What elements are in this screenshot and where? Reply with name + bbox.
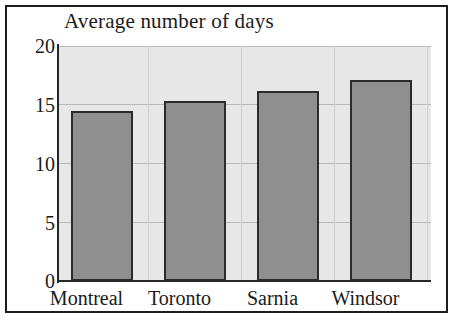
gridline-x-2 xyxy=(241,46,242,281)
ytick-label-15: 15 xyxy=(3,95,55,115)
chart-title: Average number of days xyxy=(64,9,274,34)
plot-area xyxy=(59,46,431,281)
bar-toronto xyxy=(164,101,226,281)
gridline-x-4 xyxy=(427,46,428,281)
gridline-x-1 xyxy=(148,46,149,281)
bar-sarnia xyxy=(257,91,319,281)
ytick-label-10: 10 xyxy=(3,154,55,174)
xtick-label-toronto: Toronto xyxy=(133,286,226,310)
xtick-label-montreal: Montreal xyxy=(40,286,133,310)
gridline-x-3 xyxy=(334,46,335,281)
x-axis-line xyxy=(57,280,431,282)
gridline-y-20 xyxy=(59,46,431,47)
ytick-label-20: 20 xyxy=(3,36,55,56)
y-axis-line xyxy=(57,44,59,283)
bar-windsor xyxy=(350,80,412,281)
xtick-label-windsor: Windsor xyxy=(319,286,412,310)
ytick-label-5: 5 xyxy=(3,213,55,233)
y-axis-ticks: 20 15 10 5 0 xyxy=(0,0,55,323)
chart-figure: Average number of days 20 15 10 5 0 Mont… xyxy=(0,0,466,323)
xtick-label-sarnia: Sarnia xyxy=(226,286,319,310)
bar-montreal xyxy=(71,111,133,281)
